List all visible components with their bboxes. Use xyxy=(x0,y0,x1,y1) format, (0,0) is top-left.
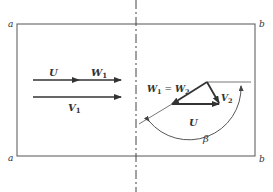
velocity-diagram: a a b b U W1 V1 W1 = W2 V2 U β xyxy=(0,0,273,192)
outlet-v2-arrow xyxy=(207,82,219,103)
outlet-w-equality-label: W1 = W2 xyxy=(147,84,190,96)
beta-label: β xyxy=(202,133,209,144)
inlet-v1-label: V1 xyxy=(68,102,81,115)
label-b-bottom: b xyxy=(259,154,265,164)
label-a-top: a xyxy=(8,19,13,29)
inlet-u-label: U xyxy=(49,67,59,78)
label-b-top: b xyxy=(259,19,265,29)
outlet-extension-line xyxy=(139,104,172,124)
outlet-u-label: U xyxy=(189,117,199,128)
label-a-bottom: a xyxy=(8,153,13,163)
inlet-w1-label: W1 xyxy=(91,67,107,80)
outlet-v2-label: V2 xyxy=(221,93,233,105)
